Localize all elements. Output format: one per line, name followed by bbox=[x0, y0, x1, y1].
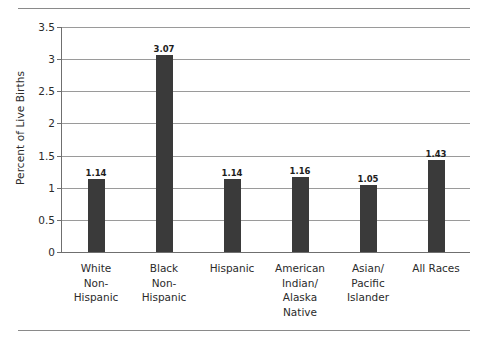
plot-area: 00.511.522.533.5 1.143.071.141.161.051.4… bbox=[62, 27, 470, 252]
gridline bbox=[62, 91, 470, 92]
bar-value-label: 1.14 bbox=[202, 168, 262, 178]
gridline bbox=[62, 123, 470, 124]
y-axis-tick-mark bbox=[57, 123, 62, 124]
gridline bbox=[62, 220, 470, 221]
figure-bottom-rule bbox=[18, 330, 470, 331]
y-axis-tick-label: 1 bbox=[16, 182, 62, 194]
x-axis-label-line: All Races bbox=[393, 261, 479, 276]
x-axis-category-label: All Races bbox=[393, 261, 479, 276]
y-axis-tick-mark bbox=[57, 59, 62, 60]
x-axis-label-line: Islander bbox=[325, 290, 411, 305]
y-axis-tick-label: 0 bbox=[16, 246, 62, 258]
bar[interactable] bbox=[88, 179, 105, 252]
x-axis-label-line: Non- bbox=[121, 276, 207, 291]
bar-value-label: 1.43 bbox=[406, 149, 466, 159]
gridline bbox=[62, 188, 470, 189]
y-axis-tick-mark bbox=[57, 220, 62, 221]
y-axis-tick-mark bbox=[57, 27, 62, 28]
y-axis-tick-mark bbox=[57, 188, 62, 189]
y-axis-tick-mark bbox=[57, 252, 62, 253]
x-axis-label-line: Pacific bbox=[325, 276, 411, 291]
bar[interactable] bbox=[156, 55, 173, 252]
gridline bbox=[62, 27, 470, 28]
bar[interactable] bbox=[360, 185, 377, 253]
bar[interactable] bbox=[428, 160, 445, 252]
y-axis-tick-label: 0.5 bbox=[16, 214, 62, 226]
x-axis-label-line: Native bbox=[257, 305, 343, 320]
y-axis-tick-label: 2 bbox=[16, 117, 62, 129]
bar-chart-figure: Percent of Live Births 00.511.522.533.5 … bbox=[0, 0, 483, 343]
axis-baseline bbox=[62, 252, 470, 253]
y-axis-tick-mark bbox=[57, 91, 62, 92]
bar-value-label: 1.16 bbox=[270, 166, 330, 176]
bar-value-label: 1.14 bbox=[66, 168, 126, 178]
y-axis-tick-label: 1.5 bbox=[16, 150, 62, 162]
gridline bbox=[62, 59, 470, 60]
bar-value-label: 3.07 bbox=[134, 44, 194, 54]
x-axis-label-line: Hispanic bbox=[121, 290, 207, 305]
y-axis-tick-label: 2.5 bbox=[16, 85, 62, 97]
bar[interactable] bbox=[224, 179, 241, 252]
bar[interactable] bbox=[292, 177, 309, 252]
y-axis-tick-label: 3 bbox=[16, 53, 62, 65]
bar-value-label: 1.05 bbox=[338, 174, 398, 184]
y-axis-tick-mark bbox=[57, 156, 62, 157]
figure-top-rule bbox=[18, 8, 470, 9]
y-axis-tick-label: 3.5 bbox=[16, 21, 62, 33]
